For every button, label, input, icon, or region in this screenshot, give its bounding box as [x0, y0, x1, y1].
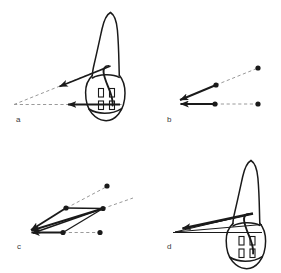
figure-panel-group: a b c d	[0, 0, 281, 273]
line-of-action-upper-c	[67, 187, 108, 209]
diagram-canvas	[0, 0, 281, 273]
pulp-canal-a	[104, 66, 113, 106]
line-of-action-mid-c	[103, 198, 133, 209]
panel-b	[180, 65, 261, 106]
vector-endpoint-dots-c	[60, 183, 109, 235]
force-vector-oblique-b[interactable]	[180, 85, 216, 100]
panel-c	[31, 183, 133, 235]
panel-label-c: c	[17, 243, 21, 251]
panel-label-d: d	[167, 243, 171, 251]
force-vector-oblique-a[interactable]	[60, 66, 111, 87]
pulp-canal-d	[244, 214, 253, 254]
panel-label-a: a	[16, 116, 20, 124]
vector-endpoint-dots-b	[212, 65, 260, 106]
force-vector-upper-c[interactable]	[31, 208, 66, 230]
line-of-action-oblique-b	[216, 68, 258, 85]
panel-d	[173, 161, 266, 269]
parallelogram-side-upper-c	[66, 208, 103, 209]
panel-a	[14, 13, 125, 121]
panel-label-b: b	[167, 116, 171, 124]
